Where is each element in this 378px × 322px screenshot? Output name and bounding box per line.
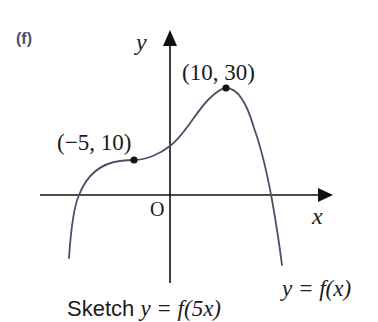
part-label: (f) xyxy=(16,30,32,48)
y-axis xyxy=(163,30,177,283)
x-axis-arrow-icon xyxy=(318,188,333,202)
y-axis-label: y xyxy=(136,30,147,54)
point-maximum xyxy=(222,84,229,91)
caption-prefix: Sketch xyxy=(67,296,140,321)
curve-f-of-x xyxy=(69,88,282,265)
inflection-point-label: (−5, 10) xyxy=(57,131,131,154)
origin-label: O xyxy=(150,199,164,219)
x-axis xyxy=(40,188,333,202)
curve-label: y = f(x) xyxy=(282,277,351,300)
caption-math: y = f(5x) xyxy=(140,296,221,321)
y-axis-arrow-icon xyxy=(163,30,177,46)
x-axis-label: x xyxy=(312,204,323,228)
maximum-point-label: (10, 30) xyxy=(182,61,255,84)
point-inflection xyxy=(130,156,137,163)
task-caption: Sketch y = f(5x) xyxy=(67,296,221,322)
